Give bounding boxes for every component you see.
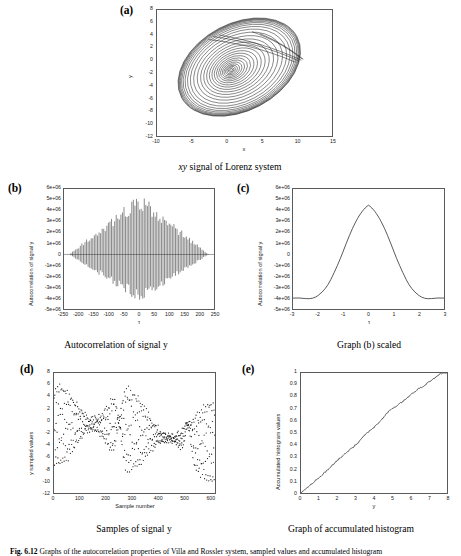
panel-c-ytick-4: 2e+06 [262,230,290,235]
panel-b-ytick-10: -4e+06 [33,296,61,301]
panel-a-ytick-2: 4 [132,32,153,37]
panel-e-plot-area [300,372,448,494]
panel-b-ytick-2: 4e+06 [33,208,61,213]
panel-b-ytick-3: 3e+06 [33,219,61,224]
panel-b-ytick-8: -2e+06 [33,274,61,279]
panel-a: (a) [0,0,461,180]
panel-b-caption: Autocorrelation of signal y [16,340,216,350]
panel-c-xlabel: τ [339,320,399,326]
panel-d-ytick-3: 2 [33,406,50,411]
panel-b-label: (b) [8,182,21,194]
panel-c-ytick-8: -2e+06 [262,274,290,279]
panel-a-ytick-5: -2 [132,70,153,75]
panel-d-xtick-3: 300 [122,496,142,501]
figure-caption-text: Graphs of the autocorrelation properties… [40,547,383,556]
panel-e-ytick-1: 0.9 [280,382,297,387]
panel-b: (b) 6e+06 5e+06 4e+06 3e+06 2e+06 1e+06 … [0,180,232,360]
panel-b-ylabel: Autocorrelation of signal y [29,186,35,306]
figure-caption: Fig. 6.12 Graphs of the autocorrelation … [10,547,454,556]
panel-e-xtick-0: 0 [292,496,308,501]
panel-c-xtick-2: -1 [334,312,352,317]
panel-c-xtick-1: -2 [309,312,327,317]
panel-e-xtick-3: 3 [348,496,364,501]
panel-b-ytick-5: 1e+06 [33,241,61,246]
panel-c-ytick-10: -4e+06 [262,296,290,301]
panel-e-ytick-6: 0.4 [280,443,297,448]
panel-e-ytick-9: 0.1 [280,479,297,484]
panel-a-ytick-7: -6 [132,96,153,101]
panel-d-ytick-9: -10 [33,479,50,484]
panel-a-ylabel: y [128,38,134,78]
panel-a-label: (a) [120,4,133,16]
panel-a-plot-area [156,9,333,137]
panel-e-xtick-5: 5 [385,496,401,501]
panel-d-ytick-2: 4 [33,394,50,399]
panel-b-plot-area [63,188,215,310]
panel-e-ylabel: Accumulated histogram values [276,365,282,490]
panel-a-xtick-0: -10 [146,139,166,144]
panel-c-plot-area [292,188,445,310]
panel-e-ytick-4: 0.6 [280,418,297,423]
panel-c-scaled-curve-svg [293,189,444,309]
panel-c-ylabel: Autocorrelation of signal y [258,186,264,306]
panel-e-xtick-7: 7 [422,496,438,501]
panel-e-ytick-3: 0.7 [280,406,297,411]
panel-e-ytick-0: 1 [280,369,297,374]
panel-b-ytick-1: 5e+06 [33,196,61,201]
panel-c-xtick-5: 2 [411,312,429,317]
panel-e-ytick-7: 0.3 [280,455,297,460]
panel-d-xlabel: Sample number [95,504,175,510]
panel-a-ytick-1: 6 [132,19,153,24]
panel-a-xtick-2: 0 [217,139,237,144]
panel-b-ytick-6: 0 [33,252,61,257]
panel-b-autocorrelation-svg [64,189,214,309]
panel-a-caption-rest: signal of Lorenz system [187,161,281,172]
panel-a-ytick-3: 2 [132,45,153,50]
panel-a-xtick-1: -5 [181,139,201,144]
panel-c: (c) 6e+06 5e+06 4e+06 3e+06 2e+06 1e+06 … [232,180,461,360]
panel-d-ytick-1: 6 [33,382,50,387]
panel-d-ytick-5: -2 [33,430,50,435]
panel-c-ytick-6: 0 [262,252,290,257]
panel-e-label: (e) [242,363,254,375]
panel-d-plot-area [53,372,216,494]
panel-a-ytick-6: -4 [132,83,153,88]
panel-e-xtick-6: 6 [403,496,419,501]
panel-d-ytick-7: -6 [33,455,50,460]
panel-d-ytick-8: -8 [33,467,50,472]
panel-d-xtick-0: 0 [43,496,63,501]
panel-e-ytick-2: 0.8 [280,394,297,399]
panel-d-xtick-6: 600 [201,496,221,501]
panel-c-label: (c) [237,182,249,194]
panel-d-ytick-6: -4 [33,443,50,448]
panel-e-ytick-8: 0.2 [280,467,297,472]
panel-d-label: (d) [20,363,33,375]
panel-c-ytick-3: 3e+06 [262,219,290,224]
panel-c-ytick-0: 6e+06 [262,185,290,190]
panel-e-xtick-1: 1 [311,496,327,501]
panel-d-xtick-5: 500 [175,496,195,501]
panel-a-ytick-9: -10 [132,122,153,127]
panel-e-xtick-2: 2 [329,496,345,501]
panel-a-trajectory-svg [157,10,332,136]
panel-e: (e) 1 0.9 0.8 0.7 0.6 0.5 0.4 0.3 0.2 0.… [232,360,461,556]
panel-d-ylabel: y sampled values [29,375,35,475]
panel-c-ytick-7: -1e+06 [262,263,290,268]
panel-e-xlabel: y [344,504,404,510]
figure-root: (a) [0,0,461,556]
panel-b-xtick-10: 250 [204,312,226,317]
panel-c-ytick-9: -3e+06 [262,285,290,290]
panel-b-ytick-0: 6e+06 [33,185,61,190]
lorenz-spiral-group [161,10,318,136]
panel-e-ytick-5: 0.5 [280,430,297,435]
panel-c-xtick-0: -3 [283,312,301,317]
panel-b-ytick-7: -1e+06 [33,263,61,268]
panel-e-xtick-8: 8 [440,496,456,501]
panel-d-xtick-1: 100 [69,496,89,501]
panel-c-xtick-3: 0 [360,312,378,317]
panel-a-caption: xy signal of Lorenz system [110,162,350,172]
figure-caption-prefix: Fig. 6.12 [10,547,38,556]
panel-d-xtick-4: 400 [148,496,168,501]
panel-e-xtick-4: 4 [366,496,382,501]
panel-d-ytick-4: 0 [33,418,50,423]
